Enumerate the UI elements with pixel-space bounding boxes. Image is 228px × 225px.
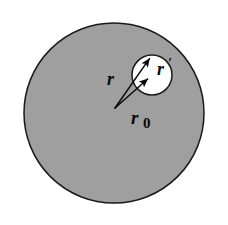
label-r-prime-base: r: [157, 59, 165, 79]
figure-container: r r ′ r 0: [0, 0, 228, 225]
shaded-sphere: [24, 23, 204, 203]
label-r-prime-mark: ′: [168, 56, 172, 71]
label-r: r: [107, 69, 115, 89]
physics-diagram: r r ′ r 0: [0, 0, 228, 225]
label-r-zero-base: r: [131, 107, 139, 128]
label-r-zero-subscript: 0: [143, 115, 151, 131]
shaded-sphere-fill: [24, 23, 204, 203]
